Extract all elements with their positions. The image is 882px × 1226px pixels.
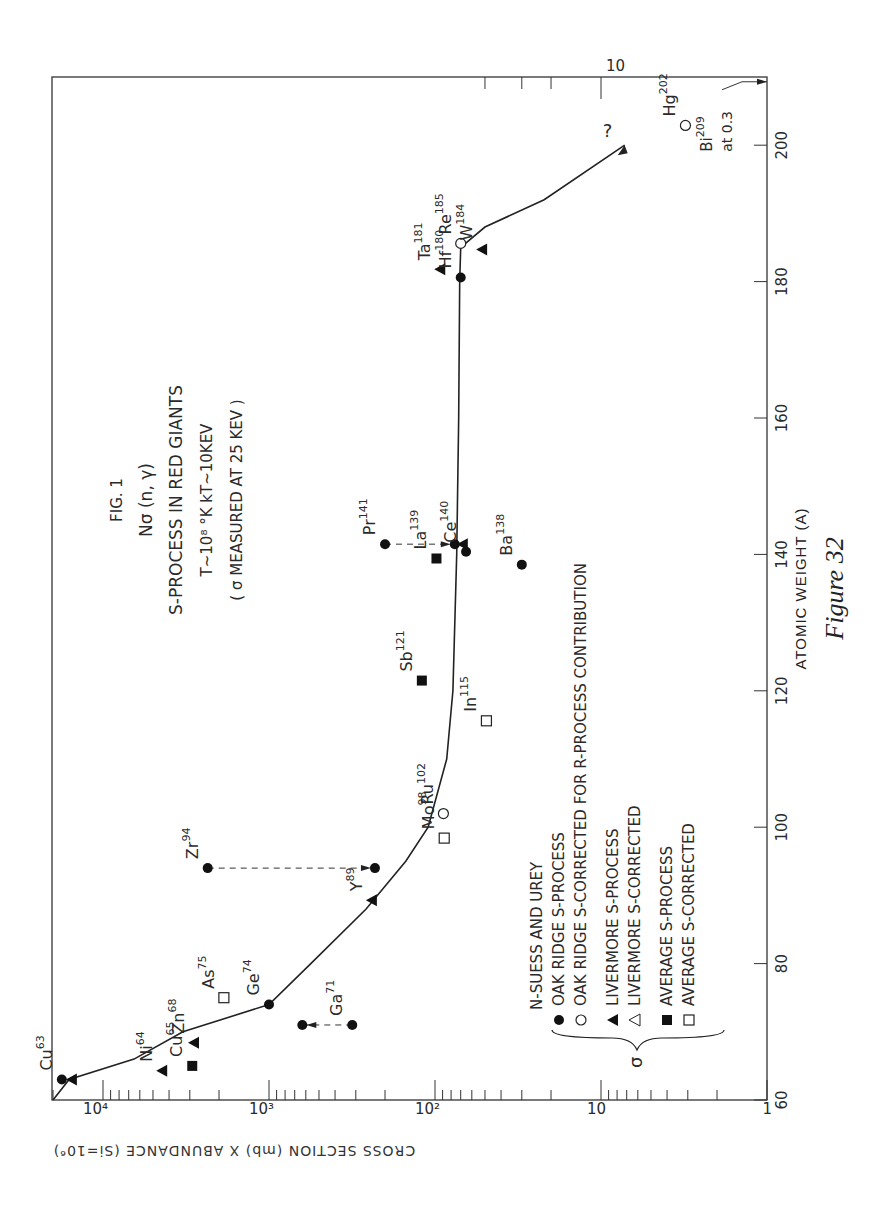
marker-filled-square <box>187 1061 197 1071</box>
curve-question-mark: ? <box>603 120 613 141</box>
point-label: Ta181 <box>412 222 434 261</box>
x-axis-label: ATOMIC WEIGHT (A) <box>792 67 809 1110</box>
legend-bracket <box>552 1030 724 1050</box>
point-label: Ru102 <box>415 763 437 805</box>
marker-open-circle <box>680 120 690 130</box>
marker-filled-circle <box>347 1020 357 1030</box>
x-tick-label: 80 <box>773 954 791 973</box>
marker-filled-circle <box>517 560 527 570</box>
point-label: W184 <box>454 204 476 241</box>
marker-open-circle <box>438 809 448 819</box>
figure-caption: Figure 32 <box>820 67 850 1110</box>
marker-filled-circle <box>456 273 466 283</box>
bi-value-label: at 0.3 <box>719 111 735 152</box>
marker-open-square <box>481 716 491 726</box>
marker-filled-square <box>417 676 427 686</box>
point-label: In115 <box>458 676 480 712</box>
title-line: FIG. 1 <box>108 478 126 522</box>
marker-filled-circle <box>57 1075 67 1085</box>
marker-filled-circle <box>203 863 213 873</box>
point-label: Ba138 <box>494 514 516 556</box>
point-label: Pr141 <box>357 498 379 535</box>
y-tick-label: 10 <box>587 1100 606 1118</box>
marker-open-square <box>684 1015 694 1025</box>
marker-filled-triangle <box>476 244 487 256</box>
marker-filled-circle <box>380 539 390 549</box>
legend-label: AVERAGE S-PROCESS <box>658 846 676 1006</box>
x-tick-label: 120 <box>773 676 791 705</box>
legend-header: N-SUESS AND UREY <box>528 861 546 1010</box>
marker-filled-circle <box>264 1000 274 1010</box>
legend-label: AVERAGE S-CORRECTED <box>680 823 698 1006</box>
arrowhead <box>361 865 371 871</box>
marker-filled-triangle <box>366 894 377 906</box>
marker-filled-triangle <box>188 1037 199 1049</box>
bi-arrowhead <box>757 79 767 85</box>
point-label: Y89 <box>344 867 366 892</box>
marker-filled-square <box>662 1015 672 1025</box>
legend: N-SUESS AND UREYOAK RIDGE S-PROCESSOAK R… <box>528 563 724 1068</box>
y-tick-label: 10² <box>415 1100 440 1118</box>
data-points <box>57 120 691 1085</box>
point-label: Ge74 <box>241 959 263 995</box>
point-label: Zn68 <box>166 999 188 1034</box>
title-line: T~10⁸ °K kT~10KEV <box>198 423 216 578</box>
bi-label: Bi209 <box>694 116 716 151</box>
x-tick-label: 60 <box>773 1090 791 1109</box>
legend-sigma: σ <box>625 1057 646 1068</box>
marker-open-square <box>219 993 229 1003</box>
marker-open-circle <box>576 1015 586 1025</box>
y-axis-label: CROSS SECTION (mb) X ABUNDANCE (Si=10⁶) <box>53 1143 415 1159</box>
scatter-plot: 60801001201401601802001011010²10³10⁴ ? C… <box>52 77 767 1100</box>
marker-filled-triangle <box>66 1074 77 1086</box>
title-line: S-PROCESS IN RED GIANTS <box>166 385 186 615</box>
legend-label: OAK RIDGE S-CORRECTED FOR R-PROCESS CONT… <box>572 563 590 1006</box>
y-tick-label-right: 10 <box>606 57 625 75</box>
x-tick-label: 140 <box>773 540 791 569</box>
figure-page: 60801001201401601802001011010²10³10⁴ ? C… <box>52 77 767 1100</box>
x-tick-label: 200 <box>773 131 791 160</box>
point-label: Re185 <box>433 193 455 234</box>
x-tick-label: 100 <box>773 813 791 842</box>
legend-label: LIVERMORE S-PROCESS <box>604 828 622 1006</box>
point-label: Zr94 <box>180 828 202 860</box>
point-label: Hf180 <box>433 230 455 269</box>
point-label: Sb121 <box>394 630 416 671</box>
point-label: La139 <box>408 510 430 550</box>
y-axis-label-container: CROSS SECTION (mb) X ABUNDANCE (Si=10⁶) <box>0 1143 664 1159</box>
point-label: Hg202 <box>657 73 679 116</box>
marker-filled-square <box>431 553 441 563</box>
point-label: Ni64 <box>134 1031 156 1061</box>
title-line: Nσ (n, γ) <box>136 463 156 537</box>
marker-filled-triangle <box>156 1065 167 1077</box>
y-tick-label: 10³ <box>249 1100 274 1118</box>
annotations: Bi209at 0.3 <box>694 79 767 152</box>
y-tick-label: 1 <box>762 1100 772 1118</box>
marker-open-square <box>439 833 449 843</box>
marker-open-triangle <box>629 1014 640 1026</box>
point-label: Ga71 <box>324 980 346 1016</box>
marker-filled-circle <box>554 1015 564 1025</box>
chart-title: FIG. 1Nσ (n, γ)S-PROCESS IN RED GIANTST~… <box>108 385 246 615</box>
bi-leader <box>722 82 742 90</box>
y-tick-label: 10⁴ <box>83 1100 108 1118</box>
marker-filled-circle <box>370 863 380 873</box>
marker-filled-circle <box>297 1020 307 1030</box>
x-tick-label: 160 <box>773 404 791 433</box>
x-tick-label: 180 <box>773 267 791 296</box>
point-label: As75 <box>196 955 218 988</box>
arrowhead <box>306 1022 316 1028</box>
legend-label: LIVERMORE S-CORRECTED <box>626 805 644 1006</box>
legend-label: OAK RIDGE S-PROCESS <box>550 832 568 1006</box>
title-line: ( σ MEASURED AT 25 KEV ) <box>228 399 246 600</box>
marker-filled-triangle <box>607 1014 618 1026</box>
